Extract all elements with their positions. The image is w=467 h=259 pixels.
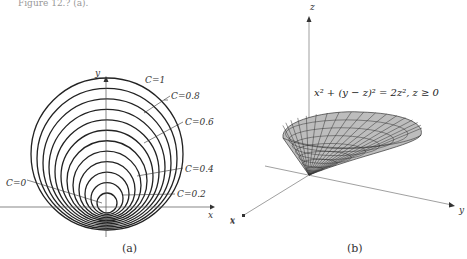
y-axis-label: y: [94, 68, 101, 78]
label-c-1: C=1: [145, 75, 165, 85]
label-c-0-2: C=0.2: [177, 189, 206, 199]
level-curve: [67, 141, 147, 221]
caption-b: (b): [347, 242, 363, 255]
x-axis-3d-label: x: [230, 216, 235, 226]
level-curve: [79, 162, 135, 218]
y-axis-3d: [265, 166, 452, 205]
label-c-0-8: C=0.8: [171, 91, 200, 101]
cone-surface: [283, 112, 422, 175]
level-curve: [49, 109, 165, 225]
top-caption-fragment: Figure 12.? (a).: [18, 0, 89, 8]
x-axis-arrow-icon: [210, 205, 215, 210]
x-axis-3d: [244, 175, 309, 215]
panel-a: x x y C=1 C=0.8 C=0.6 C=0.4 C=0.2 C=0 (a…: [0, 68, 235, 255]
x-axis-label: x: [208, 210, 213, 220]
panel-b: z y x x² + (y − z)² = 2z², z ≥ 0 (b): [230, 2, 465, 255]
y-axis-arrow-icon: [104, 76, 109, 82]
caption-a: (a): [122, 242, 137, 255]
level-curve: [97, 193, 117, 213]
label-c-0-4: C=0.4: [185, 164, 214, 174]
level-curve: [43, 99, 171, 227]
z-axis-label: z: [309, 2, 315, 12]
z-axis-arrow-icon: [307, 16, 312, 22]
x-axis-3d-arrow-icon: [242, 214, 245, 217]
label-c-0: C=0: [6, 178, 26, 188]
figure: Figure 12.? (a). x x y C=1 C=0.8 C=0.6 C…: [0, 0, 467, 259]
y-axis-3d-arrow-icon: [449, 202, 455, 208]
level-curve: [91, 183, 123, 215]
y-axis-3d-label: y: [458, 205, 465, 215]
label-c-0-6: C=0.6: [185, 117, 214, 127]
surface-equation: x² + (y − z)² = 2z², z ≥ 0: [314, 87, 440, 98]
